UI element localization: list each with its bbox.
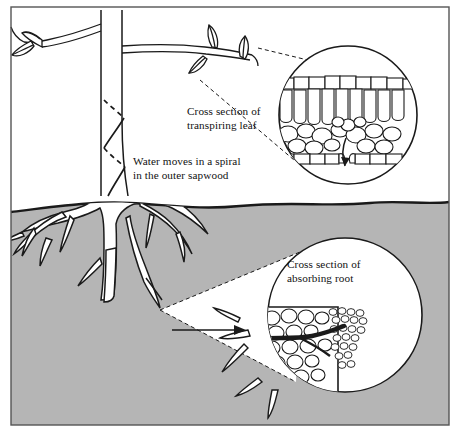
label-leaf-cross-section: Cross section of transpiring leaf (187, 105, 261, 132)
branch-right-with-leaves (122, 25, 258, 73)
figure-canvas: Cross section of transpiring leaf Water … (0, 0, 458, 439)
branch-left-with-leaves (11, 24, 101, 56)
leaf-cross-section-circle (278, 46, 418, 184)
label-water-spiral-sapwood: Water moves in a spiral in the outer sap… (133, 155, 241, 182)
diagram-artwork (0, 0, 458, 439)
label-root-cross-section: Cross section of absorbing root (287, 258, 361, 285)
